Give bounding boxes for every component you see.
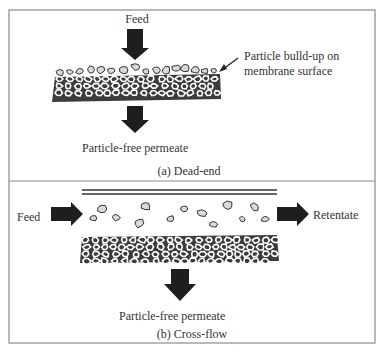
caption-dead-end: (a) Dead-end xyxy=(158,164,221,178)
membrane-grain xyxy=(215,259,223,264)
membrane-grain xyxy=(141,91,147,96)
particle xyxy=(211,68,217,73)
membrane-grain xyxy=(102,244,108,249)
annotation-line-2: membrane surface xyxy=(244,64,332,78)
membrane-grain xyxy=(150,91,157,96)
membrane-grain xyxy=(112,90,119,96)
membrane-grain xyxy=(234,258,241,263)
feed-label-a: Feed xyxy=(125,12,148,26)
membrane-grain xyxy=(213,244,219,249)
membrane-grain xyxy=(113,251,121,257)
particle xyxy=(202,69,208,74)
membrane-grain xyxy=(221,244,227,250)
particle xyxy=(76,69,84,75)
membrane-grain xyxy=(76,77,82,82)
membrane-grain xyxy=(203,76,209,81)
membrane-grain xyxy=(226,251,232,257)
membrane-grain xyxy=(198,252,206,257)
membrane-cross-flow xyxy=(80,235,279,264)
membrane-grain xyxy=(233,237,240,243)
membrane-grain xyxy=(185,77,193,82)
membrane-grain xyxy=(127,245,135,250)
membrane-grain xyxy=(94,76,100,82)
membrane-grain xyxy=(208,83,213,89)
membrane-grain xyxy=(122,91,130,96)
membrane-grain xyxy=(122,83,130,89)
membrane-grain xyxy=(104,90,111,96)
membrane-grain xyxy=(247,244,254,250)
membrane-grain xyxy=(101,83,109,89)
membrane-grain xyxy=(196,238,203,243)
membrane-grain xyxy=(162,251,169,256)
membrane-grain xyxy=(66,83,71,88)
membrane-grain xyxy=(82,251,89,256)
membrane-grain xyxy=(65,91,72,96)
membrane-grain xyxy=(153,258,159,264)
membrane-grain xyxy=(112,259,118,263)
particle xyxy=(141,203,150,210)
membrane-grain xyxy=(146,244,153,250)
membrane-grain xyxy=(214,91,220,95)
membrane-dead-end xyxy=(52,74,221,102)
membrane-grain xyxy=(131,84,139,89)
membrane-grain xyxy=(208,252,214,257)
membrane-grain xyxy=(172,83,178,89)
membrane-grain xyxy=(127,77,135,82)
membrane-grain xyxy=(55,90,63,96)
membrane-grain xyxy=(204,244,211,250)
membrane-grain xyxy=(252,251,259,257)
particle xyxy=(120,67,128,74)
membrane-grain xyxy=(261,259,268,264)
retentate-label: Retentate xyxy=(313,208,358,222)
membrane-grain xyxy=(168,244,174,250)
membrane-grain xyxy=(66,76,74,81)
membrane-grain xyxy=(110,245,116,250)
membrane-grain xyxy=(216,237,222,242)
membrane-grain xyxy=(263,237,270,243)
membrane-grain xyxy=(244,237,250,243)
particle xyxy=(172,65,181,71)
membrane-grain xyxy=(141,259,148,264)
membrane-grain xyxy=(252,238,259,243)
membrane-grain xyxy=(92,237,98,243)
membrane-grain xyxy=(103,238,109,244)
particle xyxy=(88,66,95,73)
membrane-grain xyxy=(102,77,109,82)
membrane-grain xyxy=(152,252,158,257)
membrane-grain xyxy=(82,237,89,243)
membrane-grain xyxy=(167,238,172,243)
membrane-grain xyxy=(206,237,212,242)
membrane-grain xyxy=(207,258,214,263)
membrane-grain xyxy=(93,245,99,250)
membrane-grain xyxy=(162,83,168,88)
membrane-grain xyxy=(263,251,270,256)
membrane-grain xyxy=(133,252,138,257)
membrane-grain xyxy=(92,83,100,88)
membrane-grain xyxy=(130,90,137,95)
membrane-grain xyxy=(186,238,192,243)
membrane-grain xyxy=(162,258,170,264)
particle xyxy=(56,70,63,76)
membrane-grain xyxy=(189,258,196,264)
membrane-grain xyxy=(199,84,206,89)
membrane-grain xyxy=(147,76,154,82)
membrane-grain xyxy=(167,91,174,96)
membrane-grain xyxy=(157,244,164,250)
membrane-grain xyxy=(136,244,144,250)
membrane-grain xyxy=(197,91,202,96)
particle xyxy=(181,206,188,212)
membrane-grain xyxy=(271,251,278,256)
membrane-grain xyxy=(244,258,251,264)
membrane-grain xyxy=(75,91,82,96)
particle xyxy=(143,69,149,74)
membrane-grain xyxy=(138,77,145,82)
membrane-grain xyxy=(130,258,138,264)
membrane-grain xyxy=(122,251,128,257)
membrane-grain xyxy=(199,258,205,264)
membrane-grain xyxy=(237,245,245,250)
membrane-grain xyxy=(271,237,279,243)
membrane-grain xyxy=(235,251,241,257)
membrane-grain xyxy=(172,252,178,257)
membrane-grain xyxy=(187,90,194,96)
particle xyxy=(90,216,97,221)
